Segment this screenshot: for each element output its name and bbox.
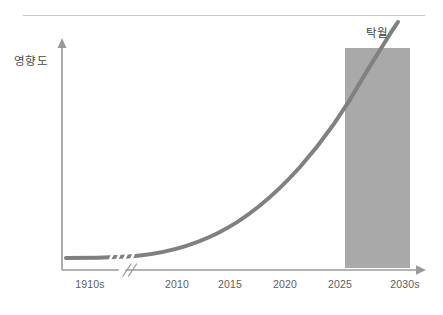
highlight-band-excellent xyxy=(345,48,410,268)
x-tick-label-2010: 2010 xyxy=(165,278,189,290)
chart-canvas xyxy=(0,0,443,315)
impact-curve-chart: 영향도 탁월 1910s 2010 2015 2020 2025 2030s xyxy=(0,0,443,315)
x-axis-arrowhead xyxy=(416,265,426,275)
y-axis-title: 영향도 xyxy=(14,52,48,68)
y-axis-arrowhead xyxy=(58,38,67,48)
x-tick-label-1910s: 1910s xyxy=(75,278,105,290)
highlight-band-label: 탁월 xyxy=(366,24,389,40)
x-tick-label-2030s: 2030s xyxy=(390,278,420,290)
x-tick-label-2015: 2015 xyxy=(218,278,242,290)
x-tick-label-2025: 2025 xyxy=(328,278,352,290)
x-tick-label-2020: 2020 xyxy=(273,278,297,290)
